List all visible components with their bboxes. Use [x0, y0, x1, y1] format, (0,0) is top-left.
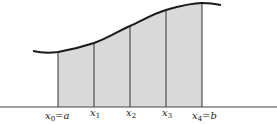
- label-x0: x0=a: [45, 110, 69, 123]
- label-x4: x4=b: [192, 110, 217, 123]
- label-x3: x3: [162, 107, 172, 120]
- riemann-diagram: x0=a x1 x2 x3 x4=b: [0, 0, 277, 124]
- label-x2: x2: [126, 107, 136, 120]
- label-x1: x1: [90, 107, 100, 120]
